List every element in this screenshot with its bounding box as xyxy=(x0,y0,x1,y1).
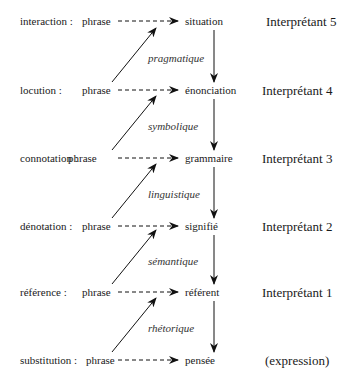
target-node: situation xyxy=(185,15,223,27)
level-label: référence : xyxy=(20,286,67,298)
target-node: signifié xyxy=(185,220,218,232)
target-node: énonciation xyxy=(185,84,236,96)
interpretant-label: (expression) xyxy=(265,354,329,368)
target-node: grammaire xyxy=(185,152,233,164)
source-phrase: phrase xyxy=(68,152,97,164)
target-node: référent xyxy=(185,286,219,298)
transition-label: symbolique xyxy=(148,120,198,132)
transition-label: rhétorique xyxy=(148,322,194,334)
source-phrase: phrase xyxy=(86,354,115,366)
target-node: pensée xyxy=(185,354,215,366)
source-phrase: phrase xyxy=(82,15,111,27)
transition-label: linguistique xyxy=(148,188,200,200)
interpretant-label: Interprétant 2 xyxy=(262,220,332,234)
interpretant-label: Interprétant 4 xyxy=(262,84,332,98)
level-label: dénotation : xyxy=(20,220,72,232)
interpretant-label: Interprétant 1 xyxy=(262,286,332,300)
level-label: interaction : xyxy=(20,15,73,27)
source-phrase: phrase xyxy=(82,220,111,232)
interpretant-label: Interprétant 3 xyxy=(262,152,332,166)
source-phrase: phrase xyxy=(82,286,111,298)
source-phrase: phrase xyxy=(82,84,111,96)
level-label: substitution : xyxy=(20,354,77,366)
interpretant-label: Interprétant 5 xyxy=(266,15,336,29)
transition-label: pragmatique xyxy=(148,52,204,64)
transition-label: sémantique xyxy=(148,255,198,267)
level-label: locution : xyxy=(20,84,62,96)
